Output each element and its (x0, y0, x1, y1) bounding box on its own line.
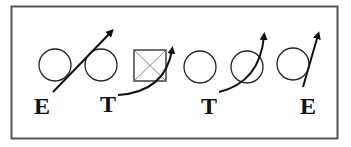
label-left-end: E (34, 93, 50, 119)
player-circle-3 (184, 51, 216, 83)
route-arrow-left-tackle (118, 50, 172, 95)
player-circle-5 (277, 48, 309, 80)
route-arrow-right-tackle (219, 36, 264, 92)
diagram-frame (12, 7, 338, 139)
route-arrow-right-end (303, 35, 318, 87)
route-arrow-left-end (53, 32, 111, 92)
label-right-end: E (300, 93, 316, 119)
label-left-tackle: T (100, 91, 116, 117)
play-diagram: E T T E (0, 0, 351, 147)
player-circle-1 (39, 49, 71, 81)
label-right-tackle: T (201, 93, 217, 119)
